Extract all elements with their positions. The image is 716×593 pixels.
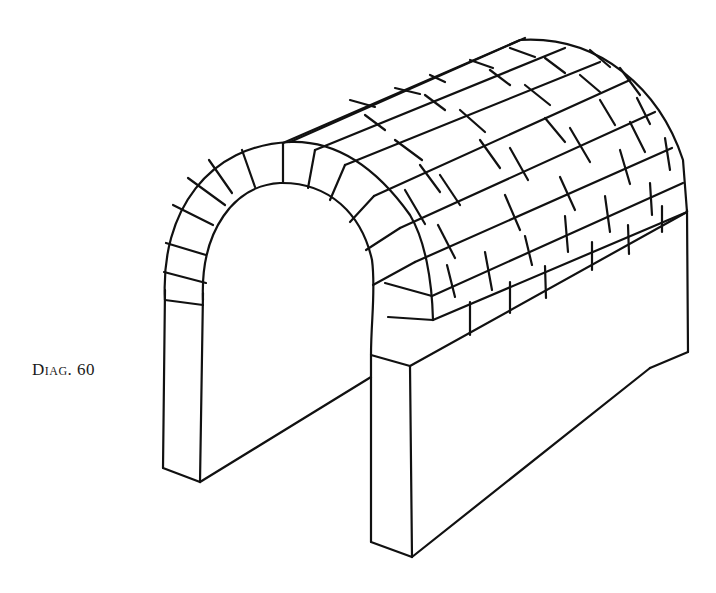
left-pier bbox=[163, 290, 371, 482]
barrel-vault-illustration bbox=[0, 0, 716, 593]
vault-surface bbox=[283, 38, 687, 335]
arch-ring bbox=[164, 142, 433, 366]
right-pier bbox=[371, 210, 688, 557]
